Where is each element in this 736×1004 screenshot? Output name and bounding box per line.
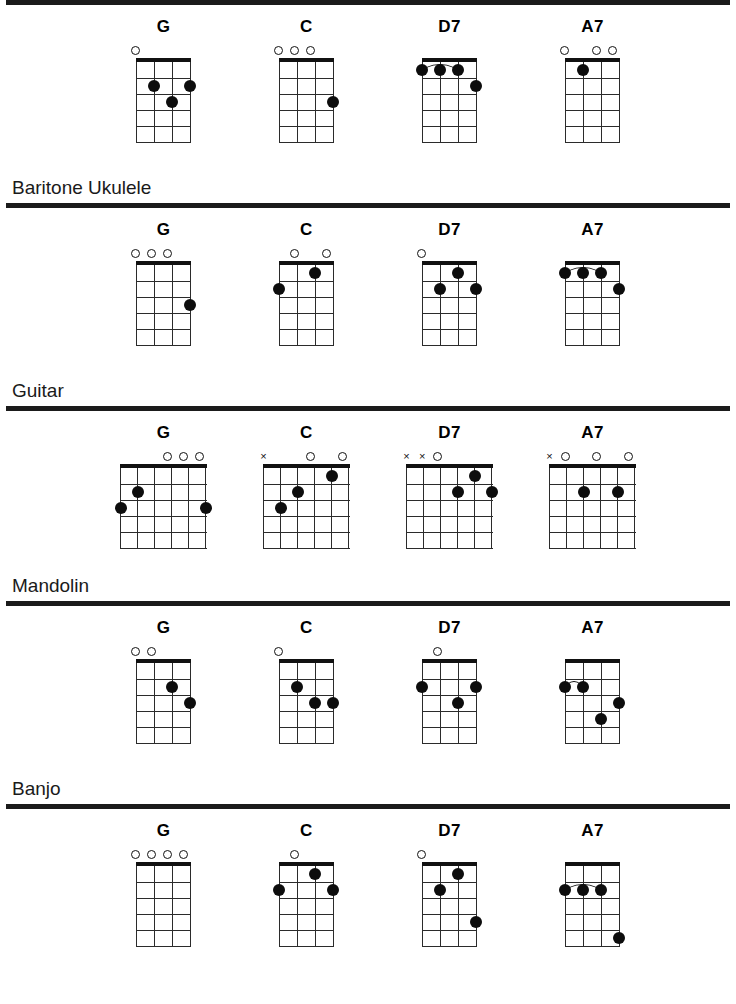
fret-line xyxy=(263,500,350,501)
fret-line xyxy=(565,930,621,931)
finger-dot xyxy=(613,283,625,295)
string-marker xyxy=(446,247,462,260)
fret-line xyxy=(406,532,493,533)
chord-diagram[interactable]: G xyxy=(92,618,235,744)
fret-line xyxy=(279,882,335,883)
instrument-section-label: Baritone Ukulele xyxy=(0,177,736,203)
string-line xyxy=(315,62,316,142)
string-marker xyxy=(271,450,287,463)
fret-line xyxy=(422,142,478,143)
nut xyxy=(565,862,621,866)
string-line xyxy=(565,62,566,142)
chord-name-label: C xyxy=(300,618,313,637)
fret-line xyxy=(279,94,335,95)
chord-diagram[interactable]: G xyxy=(92,17,235,143)
finger-dot xyxy=(452,868,464,880)
fret-line xyxy=(406,548,493,549)
chord-diagram[interactable]: G xyxy=(92,821,235,947)
chord-diagram[interactable]: G xyxy=(92,220,235,346)
fret-line xyxy=(136,345,192,346)
string-line xyxy=(154,62,155,142)
chord-diagram[interactable]: D7×× xyxy=(378,423,521,549)
finger-dot xyxy=(184,80,196,92)
open-string-icon xyxy=(179,452,188,461)
chord-diagram[interactable]: G xyxy=(92,423,235,549)
fret-line xyxy=(422,281,478,282)
string-marker xyxy=(128,848,144,861)
fret-line xyxy=(279,727,335,728)
finger-dot xyxy=(470,681,482,693)
fret-line xyxy=(565,142,621,143)
fret-line xyxy=(422,329,478,330)
string-marker xyxy=(160,450,176,463)
chord-diagram[interactable]: A7 xyxy=(521,17,664,143)
string-marker xyxy=(144,848,160,861)
fretboard xyxy=(279,862,335,947)
chord-diagram[interactable]: C× xyxy=(235,423,378,549)
string-marker xyxy=(573,848,589,861)
string-marker xyxy=(176,645,192,658)
chord-name-label: G xyxy=(157,618,171,637)
finger-dot xyxy=(613,697,625,709)
chord-diagram[interactable]: D7 xyxy=(378,618,521,744)
fret-line xyxy=(120,484,207,485)
string-line xyxy=(440,663,441,743)
string-marker xyxy=(271,44,287,57)
string-line xyxy=(154,663,155,743)
open-string-icon xyxy=(608,46,617,55)
string-marker: × xyxy=(542,450,558,463)
fret-line xyxy=(422,313,478,314)
chord-diagram[interactable]: A7 xyxy=(521,220,664,346)
string-marker xyxy=(319,450,335,463)
fretboard xyxy=(136,659,192,744)
open-mute-markers xyxy=(565,645,621,658)
fretboard xyxy=(120,464,207,549)
string-marker xyxy=(430,247,446,260)
fret-line xyxy=(565,281,621,282)
fret-line xyxy=(565,126,621,127)
finger-dot xyxy=(416,64,428,76)
fret-line xyxy=(279,946,335,947)
fretboard xyxy=(279,261,335,346)
chord-diagram[interactable]: D7 xyxy=(378,17,521,143)
string-marker xyxy=(430,450,446,463)
chord-diagram[interactable]: D7 xyxy=(378,821,521,947)
open-mute-markers: ×× xyxy=(406,450,493,463)
finger-dot xyxy=(166,96,178,108)
chord-diagram[interactable]: C xyxy=(235,618,378,744)
string-line xyxy=(619,265,620,345)
string-line xyxy=(188,468,189,548)
string-line xyxy=(583,866,584,946)
chord-diagram[interactable]: D7 xyxy=(378,220,521,346)
section-spacer xyxy=(0,346,736,380)
fret-line xyxy=(279,313,335,314)
string-marker xyxy=(128,450,144,463)
chord-row: GC×D7××A7× xyxy=(0,411,736,549)
string-line xyxy=(172,265,173,345)
chord-diagram[interactable]: C xyxy=(235,220,378,346)
fret-line xyxy=(279,914,335,915)
fret-line xyxy=(279,126,335,127)
chord-row: GCD7A7 xyxy=(0,5,736,143)
string-line xyxy=(136,663,137,743)
open-mute-markers xyxy=(279,848,335,861)
open-string-icon xyxy=(131,850,140,859)
string-line xyxy=(190,62,191,142)
string-marker xyxy=(573,645,589,658)
chord-diagram[interactable]: A7 xyxy=(521,618,664,744)
nut xyxy=(565,659,621,663)
string-line xyxy=(601,866,602,946)
chord-diagram[interactable]: A7 xyxy=(521,821,664,947)
fret-line xyxy=(406,516,493,517)
chord-diagram[interactable]: C xyxy=(235,821,378,947)
nut xyxy=(422,58,478,62)
chord-diagram[interactable]: C xyxy=(235,17,378,143)
chord-name-label: G xyxy=(157,821,171,840)
open-string-icon xyxy=(131,647,140,656)
chord-diagram[interactable]: A7× xyxy=(521,423,664,549)
open-mute-markers xyxy=(136,44,192,57)
fret-line xyxy=(565,743,621,744)
finger-dot xyxy=(577,267,589,279)
string-marker xyxy=(113,450,129,463)
chord-name-label: C xyxy=(300,821,313,840)
